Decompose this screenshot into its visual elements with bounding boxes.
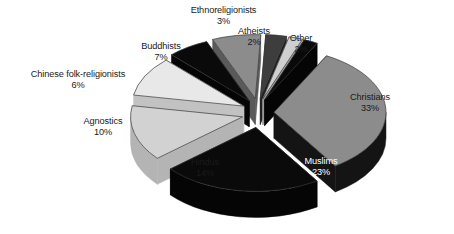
slice-label-muslims-pct: 23% (290, 167, 352, 178)
slice-label-ethnoreligionists-name: Ethnoreligionists (191, 5, 257, 15)
slice-label-other-name: Other (290, 33, 312, 43)
slice-label-ethnoreligionists: Ethnoreligionists 3% (161, 5, 286, 27)
slice-label-muslims-name: Muslims (305, 156, 338, 166)
slice-label-hindus-name: Hindus (191, 157, 219, 167)
slice-label-christians: Christians 33% (336, 92, 404, 114)
slice-label-atheists-pct: 2% (225, 37, 283, 48)
slice-label-agnostics: Agnostics 10% (69, 116, 137, 138)
slice-label-buddhists: Buddhists 7% (127, 41, 195, 63)
slice-label-buddhists-name: Buddhists (141, 41, 180, 51)
slice-label-buddhists-pct: 7% (127, 52, 195, 63)
slice-label-hindus: Hindus 14% (178, 157, 232, 179)
slice-label-other-pct: 2% (281, 44, 321, 55)
slice-label-atheists: Atheists 2% (225, 26, 283, 48)
slice-label-chinese-folk-religionists-pct: 6% (8, 80, 148, 91)
slice-label-chinese-folk-religionists-name: Chinese folk-religionists (31, 69, 126, 79)
slice-label-muslims: Muslims 23% (290, 156, 352, 178)
slice-label-christians-pct: 33% (336, 103, 404, 114)
slice-label-christians-name: Christians (350, 92, 390, 102)
slice-label-atheists-name: Atheists (238, 26, 270, 36)
slice-label-chinese-folk-religionists: Chinese folk-religionists 6% (8, 69, 148, 91)
slice-label-hindus-pct: 14% (178, 168, 232, 179)
slice-label-other: Other 2% (281, 33, 321, 55)
slice-label-agnostics-name: Agnostics (84, 116, 123, 126)
pie-chart: Ethnoreligionists 3% Atheists 2% Other 2… (0, 0, 454, 234)
slice-label-agnostics-pct: 10% (69, 127, 137, 138)
